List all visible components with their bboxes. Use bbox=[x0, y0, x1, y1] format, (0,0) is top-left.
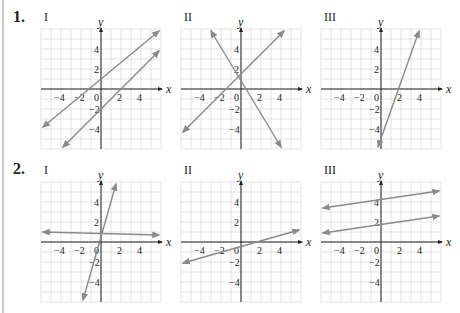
y-tick-label: −4 bbox=[369, 277, 380, 288]
y-tick-label: −2 bbox=[369, 257, 380, 268]
x-tick-label: −4 bbox=[334, 245, 345, 256]
y-axis-label: y bbox=[377, 168, 384, 182]
x-tick-label: 2 bbox=[397, 245, 402, 256]
y-tick-label: 4 bbox=[374, 197, 379, 208]
x-tick-label: 4 bbox=[417, 245, 422, 256]
graph-2-III: xy−4−202442−2−4 bbox=[0, 0, 460, 313]
x-tick-label: 0 bbox=[374, 245, 379, 256]
x-tick-label: −2 bbox=[354, 245, 365, 256]
x-axis-label: x bbox=[445, 235, 452, 249]
y-tick-label: 2 bbox=[374, 217, 379, 228]
